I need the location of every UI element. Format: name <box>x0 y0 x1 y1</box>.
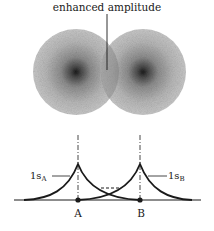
enhanced-amplitude-label: enhanced amplitude <box>53 1 162 13</box>
orbital-a-label: 1sA <box>30 170 48 183</box>
nucleus-a-label: A <box>73 207 82 219</box>
nucleus-a-dot <box>75 197 80 202</box>
orbital-overlap-diagram: enhanced amplitude 1sA 1sB <box>0 0 214 231</box>
nucleus-b-dot <box>137 197 142 202</box>
wavefunction-plot <box>14 135 201 200</box>
nucleus-b-label: B <box>137 207 145 219</box>
orbital-b-label: 1sB <box>168 170 185 183</box>
